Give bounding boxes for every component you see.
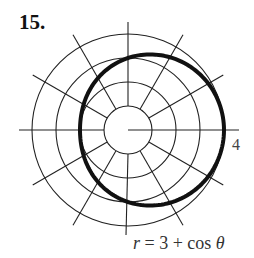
grid-spoke-60 <box>140 35 183 109</box>
grid-spoke-120 <box>73 35 116 109</box>
radial-tick-label-4: 4 <box>232 136 240 154</box>
equation-label: r = 3 + cos θ <box>133 233 225 254</box>
equation-theta: θ <box>216 233 225 253</box>
axis-negative-y <box>126 154 128 235</box>
polar-graph <box>0 0 254 258</box>
grid-spoke-330 <box>149 142 223 185</box>
equation-r: r <box>133 233 140 253</box>
grid-spoke-240 <box>73 151 116 225</box>
grid-spoke-300 <box>140 151 183 225</box>
problem-number: 15. <box>19 10 45 35</box>
equation-body: = 3 + cos <box>140 233 216 253</box>
grid-spoke-30 <box>149 75 223 118</box>
